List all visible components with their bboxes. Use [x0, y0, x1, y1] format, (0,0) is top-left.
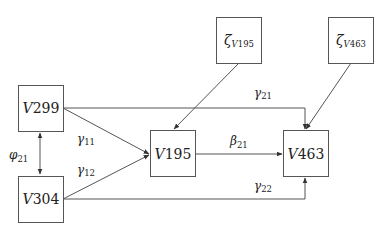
node-v195: V195	[151, 131, 196, 177]
node-v463: V463	[284, 131, 329, 177]
svg-text:V304: V304	[23, 191, 60, 207]
node-v299: V299	[19, 86, 64, 132]
path-diagram: V299 V304 V195 V463 ζV195 ζV463 φ21 γ11 …	[0, 0, 385, 235]
label-phi21: φ21	[9, 148, 28, 164]
svg-text:V195: V195	[155, 146, 192, 162]
node-zeta-v463: ζV463	[329, 18, 374, 64]
edge-zeta-v463	[306, 63, 351, 129]
label-gamma11: γ11	[77, 132, 95, 147]
label-gamma12: γ12	[77, 163, 95, 178]
label-gamma22: γ22	[254, 179, 272, 194]
edge-gamma11	[63, 108, 149, 154]
svg-text:V299: V299	[23, 100, 60, 116]
label-beta21: β21	[229, 134, 248, 150]
label-gamma21: γ21	[254, 86, 272, 101]
node-zeta-v195: ζV195	[217, 18, 262, 64]
node-v304: V304	[19, 177, 64, 223]
edge-zeta-v195	[174, 63, 239, 129]
edge-gamma12	[63, 155, 149, 199]
svg-text:V463: V463	[288, 146, 325, 162]
